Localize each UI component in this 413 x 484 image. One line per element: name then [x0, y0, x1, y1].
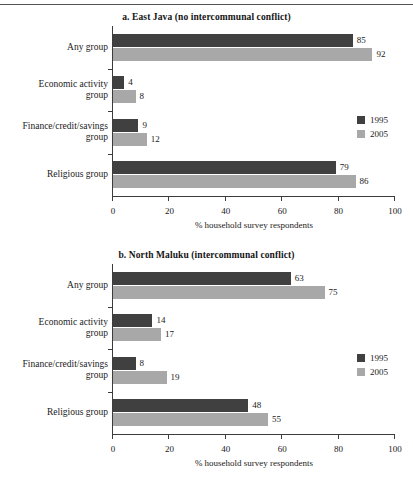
chart-panel-a: a. East Java (no intercommunal conflict)…: [0, 8, 413, 238]
chart-b-bar-1-1995: [113, 314, 152, 327]
legend-swatch-icon-1995: [357, 116, 365, 124]
chart-b-category-label-3: Religious group: [0, 407, 108, 418]
chart-b-x-tick-label-20: 20: [165, 444, 174, 454]
chart-b-x-tick-100: [394, 434, 395, 439]
chart-a-bar-2-2005: [113, 133, 147, 146]
chart-b-bar-1-2005: [113, 328, 161, 341]
chart-a-x-axis: [112, 196, 395, 197]
chart-b-bar-value-1-2005: 17: [161, 328, 174, 341]
chart-a-category-label-0: Any group: [0, 42, 108, 53]
chart-a-bar-value-3-1995: 79: [336, 161, 349, 174]
chart-a-x-tick-60: [281, 196, 282, 201]
chart-b-bar-value-3-1995: 48: [248, 399, 261, 412]
chart-a-legend-item-2005[interactable]: 2005: [357, 128, 388, 140]
chart-b-bar-value-0-2005: 75: [325, 286, 338, 299]
chart-a-bar-value-0-1995: 85: [353, 34, 366, 47]
chart-b-bar-2-1995: [113, 357, 136, 370]
chart-a-x-tick-20: [168, 196, 169, 201]
chart-a-bar-0-2005: [113, 48, 372, 61]
chart-b-y-tick-2: [108, 349, 113, 350]
chart-b-bar-value-2-1995: 8: [136, 357, 145, 370]
chart-b-x-tick-label-60: 60: [278, 444, 287, 454]
chart-a-x-tick-label-80: 80: [334, 206, 343, 216]
chart-b-x-tick-40: [225, 434, 226, 439]
chart-a-x-tick-label-60: 60: [278, 206, 287, 216]
chart-b-bar-0-2005: [113, 286, 325, 299]
chart-a-bar-1-1995: [113, 76, 124, 89]
chart-a-x-tick-label-20: 20: [165, 206, 174, 216]
chart-a-bar-value-1-1995: 4: [124, 76, 133, 89]
chart-b-x-tick-20: [168, 434, 169, 439]
chart-a-category-label-3: Religious group: [0, 169, 108, 180]
chart-b-x-tick-label-40: 40: [221, 444, 230, 454]
chart-a-bar-3-1995: [113, 161, 336, 174]
chart-b-x-tick-80: [338, 434, 339, 439]
chart-a-x-tick-label-0: 0: [111, 206, 116, 216]
chart-b-bar-value-2-2005: 19: [167, 371, 180, 384]
chart-b-bar-0-1995: [113, 272, 291, 285]
chart-a-category-label-1: Economic activity group: [0, 79, 108, 101]
legend-swatch-icon-2005: [357, 130, 365, 138]
chart-a-bar-value-0-2005: 92: [372, 48, 385, 61]
figure-page: a. East Java (no intercommunal conflict)…: [0, 0, 413, 484]
chart-b-x-tick-60: [281, 434, 282, 439]
chart-b-title: b. North Maluku (intercommunal conflict): [0, 246, 413, 262]
chart-a-legend-label-1995: 1995: [370, 115, 388, 125]
chart-a-bar-value-3-2005: 86: [356, 175, 369, 188]
chart-a-plot-area: 0204060801008592489127986: [113, 26, 395, 196]
chart-b-bar-value-1-1995: 14: [152, 314, 165, 327]
chart-b-bar-3-2005: [113, 413, 268, 426]
chart-a-bar-value-2-1995: 9: [138, 119, 147, 132]
chart-a-x-tick-100: [394, 196, 395, 201]
legend-swatch-icon-2005: [357, 368, 365, 376]
chart-b-legend-item-2005[interactable]: 2005: [357, 366, 388, 378]
chart-b-y-tick-3: [108, 392, 113, 393]
chart-b-plot-area: 020406080100637514178194855: [113, 264, 395, 434]
page-top-rule: [0, 4, 413, 5]
chart-a-y-tick-2: [108, 111, 113, 112]
chart-b-x-tick-0: [112, 434, 113, 439]
chart-a-x-tick-80: [338, 196, 339, 201]
chart-b-y-tick-1: [108, 307, 113, 308]
chart-a-legend-item-1995[interactable]: 1995: [357, 114, 388, 126]
chart-b-category-label-2: Finance/credit/savings group: [0, 359, 108, 381]
chart-b-x-axis: [112, 434, 395, 435]
chart-a-legend-label-2005: 2005: [370, 129, 388, 139]
chart-a-x-tick-label-40: 40: [221, 206, 230, 216]
chart-b-x-tick-label-0: 0: [111, 444, 116, 454]
chart-b-bar-value-0-1995: 63: [291, 272, 304, 285]
chart-a-bar-1-2005: [113, 90, 136, 103]
chart-b-legend: 19952005: [357, 352, 388, 380]
chart-a-bar-value-2-2005: 12: [147, 133, 160, 146]
chart-panel-b: b. North Maluku (intercommunal conflict)…: [0, 246, 413, 484]
chart-a-x-axis-title: % household survey respondents: [113, 220, 395, 230]
chart-a-bar-value-1-2005: 8: [136, 90, 145, 103]
chart-a-title: a. East Java (no intercommunal conflict): [0, 8, 413, 24]
chart-b-bar-2-2005: [113, 371, 167, 384]
legend-swatch-icon-1995: [357, 354, 365, 362]
chart-a-category-label-2: Finance/credit/savings group: [0, 121, 108, 143]
chart-b-bar-3-1995: [113, 399, 248, 412]
chart-b-category-label-0: Any group: [0, 280, 108, 291]
chart-b-x-tick-label-100: 100: [388, 444, 402, 454]
chart-a-y-tick-1: [108, 69, 113, 70]
chart-a-y-tick-3: [108, 154, 113, 155]
chart-a-x-tick-0: [112, 196, 113, 201]
chart-b-legend-label-1995: 1995: [370, 353, 388, 363]
chart-b-x-tick-label-80: 80: [334, 444, 343, 454]
chart-b-category-label-1: Economic activity group: [0, 317, 108, 339]
chart-a-x-tick-label-100: 100: [388, 206, 402, 216]
chart-a-bar-2-1995: [113, 119, 138, 132]
chart-a-bar-0-1995: [113, 34, 353, 47]
chart-b-bar-value-3-2005: 55: [268, 413, 281, 426]
chart-b-legend-label-2005: 2005: [370, 367, 388, 377]
chart-b-legend-item-1995[interactable]: 1995: [357, 352, 388, 364]
chart-b-x-axis-title: % household survey respondents: [113, 458, 395, 468]
chart-a-x-tick-40: [225, 196, 226, 201]
chart-a-legend: 19952005: [357, 114, 388, 142]
chart-a-bar-3-2005: [113, 175, 356, 188]
